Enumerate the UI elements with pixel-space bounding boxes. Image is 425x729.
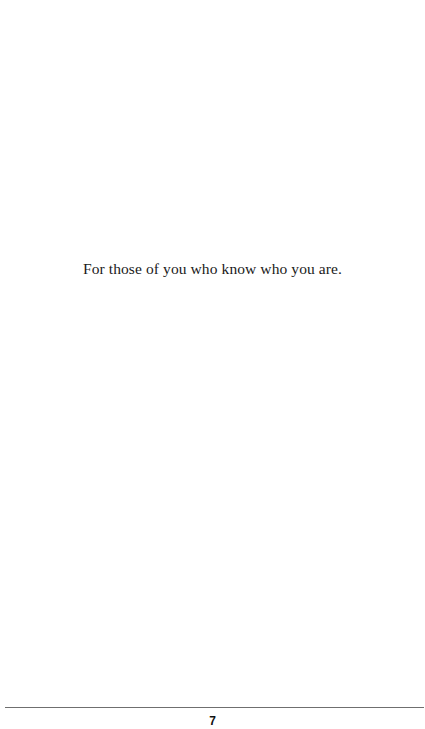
footer-divider xyxy=(5,707,424,708)
dedication-text: For those of you who know who you are. xyxy=(0,258,425,280)
page-number: 7 xyxy=(0,714,425,728)
book-page: For those of you who know who you are. 7 xyxy=(0,0,425,729)
